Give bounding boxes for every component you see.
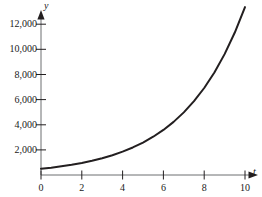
x-tick-label-10: 10 xyxy=(240,183,250,193)
y-tick-label-8000: 8,000 xyxy=(15,70,38,80)
y-tick-label-4000: 4,000 xyxy=(15,120,38,130)
x-tick-label-6: 6 xyxy=(161,183,166,193)
y-axis-arrow-icon xyxy=(37,10,44,20)
x-tick-label-0: 0 xyxy=(39,183,44,193)
x-tick-label-8: 8 xyxy=(202,183,207,193)
axes-group xyxy=(37,10,258,178)
y-tick-label-2000: 2,000 xyxy=(15,145,38,155)
x-tick-label-2: 2 xyxy=(79,183,84,193)
x-axis-label: t xyxy=(253,167,256,177)
chart-plot-area xyxy=(0,0,262,197)
chart-figure: 12,000 10,000 8,000 6,000 4,000 2,000 0 … xyxy=(0,0,262,197)
y-tick-label-6000: 6,000 xyxy=(15,95,38,105)
x-tick-label-4: 4 xyxy=(120,183,125,193)
y-tick-label-10000: 10,000 xyxy=(10,44,38,54)
y-axis-label: y xyxy=(44,1,48,11)
y-tick-label-12000: 12,000 xyxy=(10,19,38,29)
exponential-curve xyxy=(41,7,245,169)
